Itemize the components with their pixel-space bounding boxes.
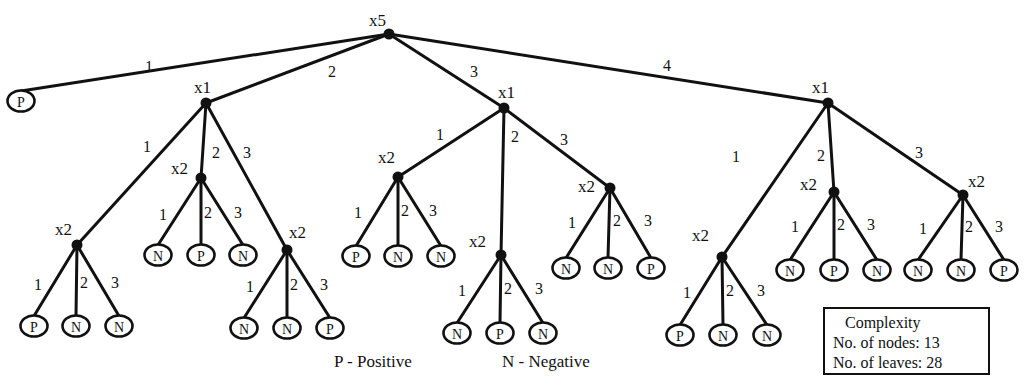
edge-label: 3: [320, 276, 328, 293]
edge-label: 1: [732, 148, 740, 165]
edge-label: 3: [757, 282, 765, 299]
node-variable-label: x2: [692, 226, 709, 245]
edge-label: 3: [867, 216, 875, 233]
edge-label: 3: [429, 202, 437, 219]
node-variable-label: x1: [194, 78, 211, 97]
leaf-class-label: N: [603, 262, 613, 277]
node-dot-icon: [823, 98, 834, 109]
node-variable-label: x2: [968, 172, 985, 191]
edge-label: 1: [919, 220, 927, 237]
leaf-class-label: N: [153, 249, 163, 264]
leaf-class-label: N: [561, 262, 571, 277]
leaf-class-label: P: [496, 327, 504, 342]
edge-label: 3: [111, 274, 119, 291]
legend-positive: P - Positive: [334, 352, 412, 371]
edge-label: 2: [511, 128, 519, 145]
edge-label: 3: [560, 131, 568, 148]
leaf-negative: N: [595, 258, 622, 279]
complexity-box: Complexity No. of nodes: 13 No. of leave…: [823, 307, 990, 375]
node-dot-icon: [605, 183, 616, 194]
leaf-negative: N: [754, 325, 781, 346]
edge-label: 1: [145, 58, 153, 75]
edge-label: 1: [791, 218, 799, 235]
leaf-positive: P: [667, 325, 694, 346]
edge-label: 1: [354, 204, 362, 221]
leaf-negative: N: [63, 316, 90, 337]
leaf-class-label: N: [238, 249, 248, 264]
tree-edge: [722, 257, 723, 325]
leaf-positive: P: [343, 246, 370, 267]
decision-node: x2: [958, 172, 986, 201]
tree-edge: [828, 103, 834, 192]
leaf-negative: N: [864, 260, 891, 281]
tree-edge: [76, 245, 77, 316]
edge-label: 3: [234, 204, 242, 221]
leaf-positive: P: [821, 260, 848, 281]
leaf-negative: N: [710, 325, 737, 346]
leaf-class-label: P: [197, 249, 205, 264]
leaf-positive: P: [188, 245, 215, 266]
node-dot-icon: [196, 173, 207, 184]
node-variable-label: x2: [289, 223, 306, 242]
edge-label: 3: [644, 212, 652, 229]
edge-label: 1: [436, 126, 444, 143]
decision-node: x2: [692, 226, 728, 263]
tree-edge: [608, 188, 610, 258]
edge-label: 1: [246, 278, 254, 295]
tree-edge: [201, 103, 206, 178]
node-dot-icon: [496, 250, 507, 261]
tree-edge: [206, 34, 389, 103]
leaf-class-label: N: [114, 320, 124, 335]
edge-label: 1: [143, 138, 151, 155]
leaf-class-label: N: [718, 329, 728, 344]
decision-node: x2: [378, 148, 404, 183]
tree-edges: [21, 34, 1004, 325]
leaf-class-label: N: [71, 320, 81, 335]
leaf-negative: N: [106, 316, 133, 337]
edge-label: 2: [204, 204, 212, 221]
leaf-class-label: N: [436, 250, 446, 265]
leaf-class-label: N: [762, 329, 772, 344]
edge-label: 2: [837, 216, 845, 233]
edge-label: 3: [470, 63, 478, 80]
tree-edge: [398, 108, 504, 177]
leaf-class-label: N: [913, 264, 923, 279]
leaf-class-label: P: [647, 262, 655, 277]
leaf-class-label: P: [1000, 264, 1008, 279]
edge-label: 1: [34, 276, 42, 293]
node-variable-label: x1: [498, 83, 515, 102]
node-variable-label: x1: [812, 78, 829, 97]
leaf-class-label: N: [538, 327, 548, 342]
leaf-negative: N: [777, 260, 804, 281]
leaf-positive: P: [21, 316, 48, 337]
legend-negative: N - Negative: [502, 352, 590, 371]
leaf-class-label: N: [239, 322, 249, 337]
tree-edge: [389, 34, 828, 103]
tree-edge: [501, 108, 504, 255]
leaf-class-label: P: [30, 320, 38, 335]
leaf-negative: N: [444, 323, 471, 344]
leaf-positive: P: [638, 258, 665, 279]
edge-label: 2: [726, 282, 734, 299]
edge-label: 2: [212, 144, 220, 161]
edge-label: 2: [401, 202, 409, 219]
node-dot-icon: [717, 252, 728, 263]
tree-edge: [961, 195, 963, 260]
leaf-class-label: N: [872, 264, 882, 279]
leaf-class-label: N: [393, 250, 403, 265]
leaf-class-label: P: [17, 95, 25, 110]
node-dot-icon: [499, 103, 510, 114]
leaf-positive: P: [317, 318, 344, 339]
leaf-positive: P: [487, 323, 514, 344]
leaf-negative: N: [553, 258, 580, 279]
tree-edge: [828, 103, 963, 195]
edge-label: 1: [683, 284, 691, 301]
leaf-negative: N: [385, 246, 412, 267]
node-variable-label: x2: [55, 220, 72, 239]
node-variable-label: x2: [578, 177, 595, 196]
edge-label: 3: [535, 280, 543, 297]
tree-edge-labels: 1234123123123123123123123123123123123123: [34, 57, 1003, 301]
node-variable-label: x2: [800, 175, 817, 194]
edge-label: 3: [995, 218, 1003, 235]
node-variable-label: x2: [378, 148, 395, 167]
